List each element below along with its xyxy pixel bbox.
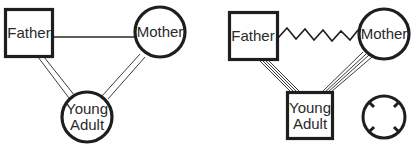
node-father-right: Father xyxy=(230,13,278,60)
edge-mother-youngadult-quadruple xyxy=(322,52,372,92)
node-mother-left: Mother xyxy=(135,7,185,57)
youngadult-label-line1: Young xyxy=(289,99,331,116)
right-diagram: Father Mother Young Adult xyxy=(230,9,410,139)
mother-label: Mother xyxy=(361,25,408,42)
youngadult-label-line2: Adult xyxy=(70,116,105,133)
edge-mother-youngadult-double xyxy=(102,54,145,99)
youngadult-label-line1: Young xyxy=(66,100,108,117)
mother-label: Mother xyxy=(137,23,184,40)
father-label: Father xyxy=(7,24,50,41)
family-diagram-canvas: Father Mother Young Adult xyxy=(0,0,416,148)
node-mother-right: Mother xyxy=(359,9,409,59)
edge-father-youngadult-quadruple xyxy=(260,61,300,92)
node-youngadult-left: Young Adult xyxy=(62,92,112,142)
node-youngadult-right: Young Adult xyxy=(288,93,333,139)
cutoff-icon xyxy=(363,96,405,138)
father-label: Father xyxy=(231,27,274,44)
node-father-left: Father xyxy=(6,10,53,57)
edge-father-youngadult-double xyxy=(38,57,75,98)
left-diagram: Father Mother Young Adult xyxy=(6,7,186,142)
edge-father-mother-zigzag xyxy=(278,28,358,41)
youngadult-label-line2: Adult xyxy=(293,115,328,132)
